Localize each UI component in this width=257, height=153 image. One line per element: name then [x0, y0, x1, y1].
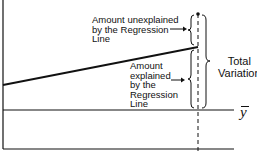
mean-y-label: y — [240, 104, 247, 121]
total-variation-label: Total Variation — [218, 55, 257, 79]
unexplained-brace — [188, 15, 194, 45]
explained-brace — [188, 50, 194, 108]
explained-label: Amount explained by the Regression Line — [130, 61, 178, 109]
overbar — [241, 106, 249, 107]
explained-arrowhead-icon — [181, 78, 185, 83]
unexplained-label: Amount unexplained by the Regression Lin… — [92, 15, 179, 44]
observation-point — [196, 12, 200, 16]
unexplained-arrowhead-icon — [183, 27, 187, 32]
total-variation-brace — [202, 15, 210, 108]
